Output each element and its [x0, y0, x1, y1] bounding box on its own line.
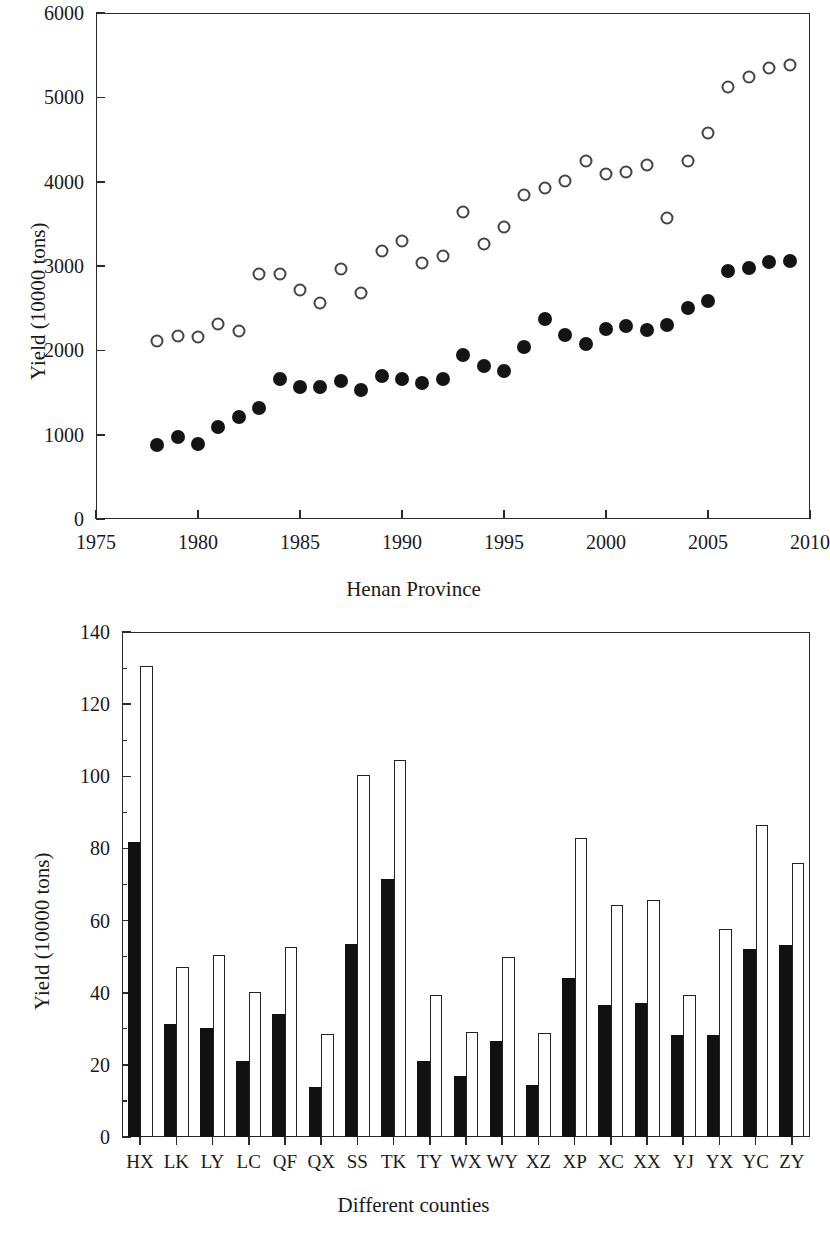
x-axis-tick — [429, 1137, 431, 1145]
y-axis-minor-tick — [122, 668, 127, 669]
y-axis-minor-tick — [122, 884, 127, 885]
x-axis-tick-label: QX — [307, 1151, 334, 1173]
data-point-wheat-yield — [171, 430, 185, 444]
y-axis-tick — [96, 181, 105, 183]
bar-wheat-yield — [779, 945, 791, 1137]
bar-wheat-yield — [236, 1061, 248, 1137]
x-axis-tick — [682, 1137, 684, 1145]
y-axis-tick-label: 40 — [28, 981, 110, 1004]
bar-total-crop-production — [249, 992, 261, 1137]
bar-wheat-yield — [562, 978, 574, 1137]
x-axis-tick — [393, 1137, 395, 1145]
y-axis-minor-tick — [122, 1028, 127, 1029]
data-point-wheat-yield — [150, 438, 164, 452]
data-point-wheat-yield — [191, 437, 205, 451]
x-axis-tick — [197, 510, 199, 519]
bar-total-crop-production — [394, 760, 406, 1137]
y-axis-tick — [122, 631, 131, 633]
data-point-total-crop-production — [702, 127, 715, 140]
bar-wheat-yield — [490, 1041, 502, 1137]
y-axis-tick-label: 0 — [28, 1126, 110, 1149]
y-axis-minor-tick — [122, 1100, 127, 1101]
y-axis-tick-label: 1000 — [0, 423, 84, 446]
bar-wheat-yield — [671, 1035, 683, 1137]
y-axis-tick — [96, 97, 105, 99]
bar-total-crop-production — [647, 900, 659, 1137]
x-axis-tick-label: SS — [347, 1151, 368, 1173]
bar-wheat-yield — [526, 1085, 538, 1137]
data-point-total-crop-production — [151, 335, 164, 348]
bar-wheat-yield — [743, 949, 755, 1137]
data-point-total-crop-production — [416, 257, 429, 270]
data-point-wheat-yield — [477, 359, 491, 373]
x-axis-tick-label: XP — [562, 1151, 586, 1173]
data-point-wheat-yield — [436, 372, 450, 386]
x-axis-tick-label: 1985 — [280, 531, 320, 554]
y-axis-tick — [96, 518, 105, 520]
data-point-wheat-yield — [375, 369, 389, 383]
y-axis-tick-label: 60 — [28, 909, 110, 932]
y-axis-tick — [96, 434, 105, 436]
bar-wheat-yield — [454, 1076, 466, 1137]
data-point-total-crop-production — [396, 235, 409, 248]
data-point-wheat-yield — [497, 364, 511, 378]
bar-total-crop-production — [321, 1034, 333, 1137]
x-axis-tick — [95, 510, 97, 519]
data-point-wheat-yield — [293, 380, 307, 394]
x-axis-tick-label: LK — [164, 1151, 189, 1173]
data-point-wheat-yield — [313, 380, 327, 394]
x-axis-tick — [139, 1137, 141, 1145]
data-point-total-crop-production — [640, 158, 653, 171]
y-axis-tick-label: 5000 — [0, 86, 84, 109]
data-point-total-crop-production — [294, 284, 307, 297]
x-axis-tick-label: 1995 — [484, 531, 524, 554]
x-axis-tick-label: LY — [201, 1151, 224, 1173]
data-point-total-crop-production — [192, 330, 205, 343]
data-point-wheat-yield — [456, 348, 470, 362]
bar-wheat-yield — [598, 1005, 610, 1137]
x-axis-tick-label: ZY — [779, 1151, 804, 1173]
x-axis-tick — [465, 1137, 467, 1145]
data-point-wheat-yield — [252, 401, 266, 415]
bar-wheat-yield — [272, 1014, 284, 1137]
x-axis-tick-label: YC — [742, 1151, 768, 1173]
data-point-total-crop-production — [559, 174, 572, 187]
x-axis-tick — [401, 510, 403, 519]
x-axis-tick — [320, 1137, 322, 1145]
data-point-wheat-yield — [558, 328, 572, 342]
bar-wheat-yield — [200, 1028, 212, 1137]
panel-a-x-axis-title: Henan Province — [0, 577, 827, 602]
bar-total-crop-production — [611, 905, 623, 1137]
x-axis-tick — [605, 510, 607, 519]
bar-wheat-yield — [309, 1087, 321, 1137]
y-axis-tick-label: 20 — [28, 1053, 110, 1076]
bar-total-crop-production — [502, 957, 514, 1137]
data-point-wheat-yield — [211, 420, 225, 434]
data-point-wheat-yield — [762, 255, 776, 269]
bar-wheat-yield — [417, 1061, 429, 1137]
bar-total-crop-production — [357, 775, 369, 1137]
data-point-total-crop-production — [355, 286, 368, 299]
x-axis-tick-label: 2010 — [790, 531, 830, 554]
data-point-total-crop-production — [273, 268, 286, 281]
x-axis-tick-label: 2000 — [586, 531, 626, 554]
data-point-total-crop-production — [375, 244, 388, 257]
y-axis-tick-label: 3000 — [0, 255, 84, 278]
y-axis-tick-label: 80 — [28, 837, 110, 860]
x-axis-tick-label: YJ — [673, 1151, 694, 1173]
data-point-total-crop-production — [212, 318, 225, 331]
bar-wheat-yield — [381, 879, 393, 1137]
x-axis-tick-label: XZ — [526, 1151, 551, 1173]
x-axis-tick — [284, 1137, 286, 1145]
data-point-wheat-yield — [579, 337, 593, 351]
data-point-total-crop-production — [498, 220, 511, 233]
data-point-wheat-yield — [619, 319, 633, 333]
data-point-total-crop-production — [579, 154, 592, 167]
data-point-total-crop-production — [232, 324, 245, 337]
bar-total-crop-production — [176, 967, 188, 1137]
panel-b-x-axis-title: Different counties — [0, 1193, 827, 1218]
bar-wheat-yield — [635, 1003, 647, 1137]
x-axis-tick-label: LC — [237, 1151, 261, 1173]
bar-total-crop-production — [756, 825, 768, 1137]
